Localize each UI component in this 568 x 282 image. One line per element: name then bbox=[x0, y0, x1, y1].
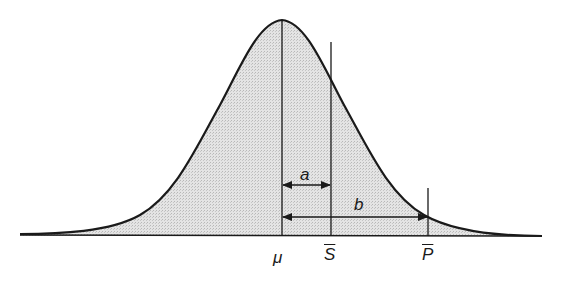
distance-b-label: b bbox=[354, 196, 363, 213]
s-bar-label: S bbox=[324, 246, 335, 263]
bell-curve-graphic bbox=[0, 0, 568, 282]
mu-label: μ bbox=[273, 249, 282, 266]
curve-area bbox=[20, 20, 542, 236]
x-axis-baseline bbox=[20, 235, 542, 236]
distance-a-label: a bbox=[300, 166, 309, 183]
normal-distribution-diagram: a b μ S P bbox=[0, 0, 568, 282]
p-bar-label: P bbox=[422, 246, 433, 263]
